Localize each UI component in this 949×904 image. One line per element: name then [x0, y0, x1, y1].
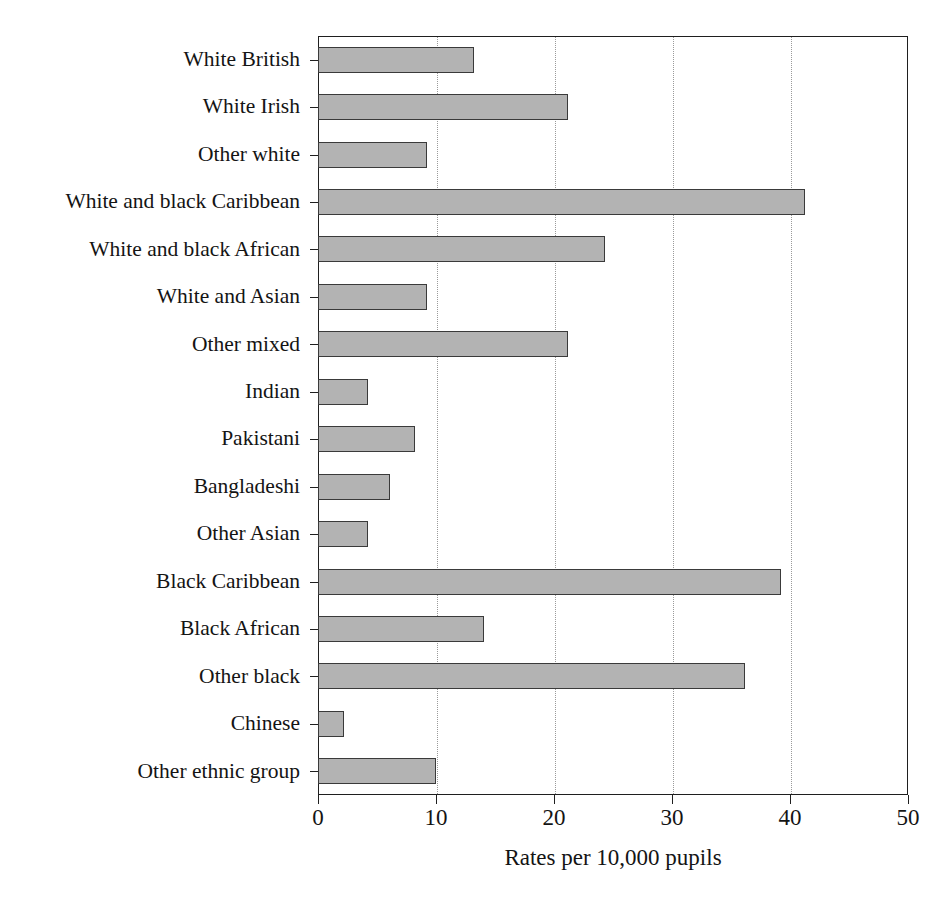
- y-axis-label-row: Pakistani: [0, 416, 308, 463]
- y-axis-label: Other white: [198, 144, 308, 166]
- y-axis-tick: [310, 771, 318, 772]
- y-axis-label-row: White and Asian: [0, 273, 308, 320]
- bar-row[interactable]: [318, 510, 908, 557]
- y-axis-label: Pakistani: [221, 428, 308, 450]
- bar-row[interactable]: [318, 368, 908, 415]
- bar-row[interactable]: [318, 321, 908, 368]
- y-axis-labels: White BritishWhite IrishOther whiteWhite…: [0, 36, 308, 795]
- y-axis-label: Other black: [199, 666, 308, 688]
- y-axis-label-row: White and black Caribbean: [0, 178, 308, 225]
- x-axis-tick: [436, 795, 437, 804]
- y-axis-tick: [310, 249, 318, 250]
- y-axis-label-row: Chinese: [0, 700, 308, 747]
- x-axis-tick: [554, 795, 555, 804]
- y-axis-tick: [310, 724, 318, 725]
- y-axis-tick: [310, 107, 318, 108]
- bar-row[interactable]: [318, 748, 908, 795]
- y-axis-tick: [310, 60, 318, 61]
- bars-layer: [318, 36, 908, 795]
- y-axis-label-row: Other Asian: [0, 510, 308, 557]
- x-axis-tick: [318, 795, 319, 804]
- y-axis-label-row: White Irish: [0, 83, 308, 130]
- bar[interactable]: [318, 94, 568, 120]
- bar[interactable]: [318, 47, 474, 73]
- bar-row[interactable]: [318, 700, 908, 747]
- bar[interactable]: [318, 521, 368, 547]
- bar-row[interactable]: [318, 653, 908, 700]
- y-axis-label-row: Other black: [0, 653, 308, 700]
- y-axis-label: Indian: [245, 381, 308, 403]
- x-axis-title: Rates per 10,000 pupils: [318, 845, 908, 871]
- x-axis-tick-label: 0: [312, 806, 324, 829]
- x-axis-tick-label: 50: [897, 806, 920, 829]
- bar[interactable]: [318, 474, 390, 500]
- y-axis-label: White Irish: [203, 96, 308, 118]
- y-axis-tick: [310, 676, 318, 677]
- bar[interactable]: [318, 379, 368, 405]
- y-axis-label: Black African: [180, 618, 308, 640]
- y-axis-label: Other ethnic group: [138, 761, 308, 783]
- bar[interactable]: [318, 758, 436, 784]
- y-axis-tick: [310, 392, 318, 393]
- x-axis-tick-label: 20: [543, 806, 566, 829]
- bar-row[interactable]: [318, 36, 908, 83]
- bar-row[interactable]: [318, 178, 908, 225]
- y-axis-label: Other Asian: [197, 523, 308, 545]
- bar-row[interactable]: [318, 83, 908, 130]
- bar[interactable]: [318, 142, 427, 168]
- y-axis-label-row: White and black African: [0, 226, 308, 273]
- y-axis-tick: [310, 344, 318, 345]
- y-axis-label: Bangladeshi: [194, 476, 308, 498]
- bar-row[interactable]: [318, 273, 908, 320]
- bar[interactable]: [318, 616, 484, 642]
- bar[interactable]: [318, 189, 805, 215]
- y-axis-label-row: Other white: [0, 131, 308, 178]
- x-axis-tick-label: 30: [661, 806, 684, 829]
- y-axis-label: White British: [184, 49, 308, 71]
- y-axis-label: White and black Caribbean: [65, 191, 308, 213]
- bar[interactable]: [318, 663, 745, 689]
- bar-row[interactable]: [318, 416, 908, 463]
- x-axis-tick: [908, 795, 909, 804]
- y-axis-tick: [310, 534, 318, 535]
- y-axis-tick: [310, 629, 318, 630]
- y-axis-tick: [310, 202, 318, 203]
- y-axis-label-row: Other mixed: [0, 321, 308, 368]
- y-axis-label-row: Other ethnic group: [0, 748, 308, 795]
- y-axis-label-row: White British: [0, 36, 308, 83]
- bar[interactable]: [318, 284, 427, 310]
- y-axis-tick: [310, 582, 318, 583]
- bar-row[interactable]: [318, 226, 908, 273]
- y-axis-tick: [310, 297, 318, 298]
- bar-row[interactable]: [318, 463, 908, 510]
- bar-row[interactable]: [318, 558, 908, 605]
- bar[interactable]: [318, 331, 568, 357]
- y-axis-tick: [310, 155, 318, 156]
- y-axis-label-row: Bangladeshi: [0, 463, 308, 510]
- y-axis-label: White and black African: [89, 239, 308, 261]
- x-axis-tick: [790, 795, 791, 804]
- x-axis-tick-label: 10: [425, 806, 448, 829]
- x-axis-tick: [672, 795, 673, 804]
- y-axis-label-row: Black African: [0, 605, 308, 652]
- y-axis-label-row: Black Caribbean: [0, 558, 308, 605]
- bar[interactable]: [318, 236, 605, 262]
- y-axis-tick: [310, 439, 318, 440]
- y-axis-tick: [310, 487, 318, 488]
- x-axis-tick-label: 40: [779, 806, 802, 829]
- y-axis-label-row: Indian: [0, 368, 308, 415]
- bar[interactable]: [318, 569, 781, 595]
- bar-row[interactable]: [318, 605, 908, 652]
- y-axis-label: Chinese: [231, 713, 308, 735]
- bar[interactable]: [318, 711, 344, 737]
- y-axis-label: Other mixed: [192, 334, 308, 356]
- bar-row[interactable]: [318, 131, 908, 178]
- y-axis-label: Black Caribbean: [156, 571, 308, 593]
- y-axis-label: White and Asian: [157, 286, 308, 308]
- bar-chart: White BritishWhite IrishOther whiteWhite…: [0, 0, 949, 904]
- bar[interactable]: [318, 426, 415, 452]
